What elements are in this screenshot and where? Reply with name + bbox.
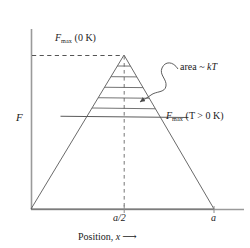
area-prefix: area ~ [180,61,207,72]
x-axis-title-text: Position, [78,231,113,242]
free-energy-position-figure: F Fmax (0 K) Fmax (T > 0 K) area ~ kT a/… [0,0,250,248]
plot-canvas [0,0,250,248]
hatched-area-kt [25,66,225,110]
fmax-zero-condition: (0 K) [75,32,96,43]
x-axis-title-variable: x [116,231,120,242]
x-tick-label-a-half: a/2 [113,213,126,223]
fmax-zero-subscript: max [61,37,72,44]
free-energy-triangle [31,55,214,209]
area-quantity: kT [207,61,217,72]
right-arrow-icon: ⟶ [122,232,136,242]
fmax-zero-kelvin-label: Fmax (0 K) [55,33,96,44]
y-axis-label: F [16,112,23,123]
fmax-finite-subscript: max [172,115,183,122]
area-leader-squiggle [140,63,178,102]
x-axis-title: Position, x⟶ [78,232,137,242]
fmax-finite-temperature-label: Fmax (T > 0 K) [166,111,224,122]
fmax-finite-condition: (T > 0 K) [186,110,224,121]
area-kt-label: area ~ kT [180,62,217,72]
x-tick-label-a: a [211,213,216,223]
